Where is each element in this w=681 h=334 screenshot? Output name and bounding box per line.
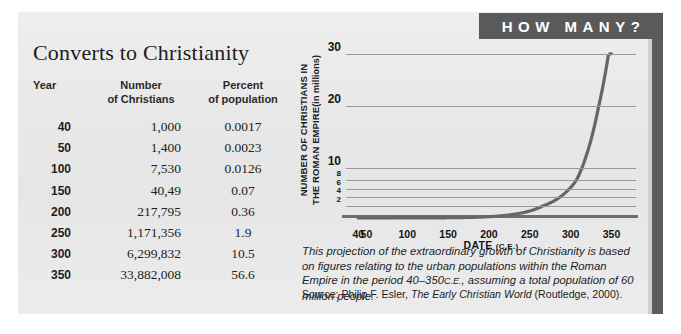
cell-percent: 56.6 — [195, 265, 291, 286]
cell-year: 40 — [33, 117, 87, 138]
table-row: 35033,882,00856.6 — [33, 265, 291, 286]
column-header-year: Year — [33, 79, 87, 117]
cell-number: 40,49 — [87, 180, 195, 201]
converts-table: Year Number of Christians Percent of pop… — [33, 79, 291, 286]
cell-number: 1,400 — [87, 138, 195, 159]
cell-year: 50 — [33, 138, 87, 159]
table-row: 2501,171,3561.9 — [33, 222, 291, 243]
table-row: 3006,299,83210.5 — [33, 244, 291, 265]
cell-percent: 0.36 — [195, 201, 291, 222]
chart-plot-area: 30201086424050100150200250300350 — [346, 46, 636, 218]
cell-percent: 0.0023 — [195, 138, 291, 159]
page-title: Converts to Christianity — [33, 40, 295, 66]
chart-gridline — [346, 197, 636, 198]
column-header-percent-line2: of population — [208, 93, 278, 105]
source-prefix: Source: Philip F. Esler, — [302, 288, 408, 300]
cell-number: 1,000 — [87, 117, 195, 138]
cell-percent: 0.0017 — [195, 117, 291, 138]
cell-percent: 0.0126 — [195, 159, 291, 180]
cell-year: 350 — [33, 265, 87, 286]
table-row: 1007,5300.0126 — [33, 159, 291, 180]
table-block: Converts to Christianity Year Number of … — [33, 40, 295, 286]
column-header-percent-line1: Percent — [223, 79, 263, 91]
y-axis-label-unit: (in millions) — [311, 55, 321, 107]
cell-percent: 1.9 — [195, 222, 291, 243]
chart-gridline — [346, 180, 636, 181]
how-many-banner: HOW MANY? — [479, 13, 663, 39]
cell-year: 100 — [33, 159, 87, 180]
cell-number: 217,795 — [87, 201, 195, 222]
column-header-number-line1: Number — [120, 79, 162, 91]
table-header-row: Year Number of Christians Percent of pop… — [33, 79, 291, 117]
chart-block: NUMBER OF CHRISTIANS IN THE ROMAN EMPIRE… — [300, 40, 650, 240]
growth-curve — [346, 46, 636, 218]
chart-gridline — [346, 168, 636, 169]
y-axis-tick-label: 30 — [328, 40, 341, 54]
cell-year: 300 — [33, 244, 87, 265]
table-row: 200217,7950.36 — [33, 201, 291, 222]
column-header-percent: Percent of population — [195, 79, 291, 117]
y-axis-tick-label: 2 — [337, 194, 341, 203]
chart-gridline — [346, 54, 636, 55]
table-row: 401,0000.0017 — [33, 117, 291, 138]
cell-year: 250 — [33, 222, 87, 243]
cell-number: 1,171,356 — [87, 222, 195, 243]
source-suffix: (Routledge, 2000). — [535, 288, 623, 300]
cell-number: 6,299,832 — [87, 244, 195, 265]
column-header-year-label: Year — [33, 79, 56, 91]
table-row: 15040,490.07 — [33, 180, 291, 201]
caption-line3-smallcaps: C.E. — [444, 276, 462, 286]
y-axis-tick-label: 10 — [328, 154, 341, 168]
cell-year: 200 — [33, 201, 87, 222]
column-header-number-line2: of Christians — [107, 93, 174, 105]
y-axis-tick-label: 20 — [328, 92, 341, 106]
caption-line3-a: period 40–350 — [372, 274, 444, 286]
chart-gridline — [346, 189, 636, 190]
chart-y-axis-label: NUMBER OF CHRISTIANS IN THE ROMAN EMPIRE… — [298, 40, 320, 220]
chart-gridline — [346, 206, 636, 207]
y-axis-label-line2: THE ROMAN EMPIRE — [310, 107, 321, 205]
cell-percent: 0.07 — [195, 180, 291, 201]
cell-year: 150 — [33, 180, 87, 201]
chart-gridline — [346, 106, 636, 107]
figure-root: HOW MANY? Converts to Christianity Year … — [0, 0, 681, 334]
cell-number: 7,530 — [87, 159, 195, 180]
right-spine-dark — [652, 22, 663, 314]
source-line: Source: Philip F. Esler, The Early Chris… — [302, 288, 647, 301]
y-axis-label-line1: NUMBER OF CHRISTIANS IN — [298, 64, 309, 197]
cell-number: 33,882,008 — [87, 265, 195, 286]
column-header-number: Number of Christians — [87, 79, 195, 117]
source-title: The Early Christian World — [411, 288, 532, 300]
cell-percent: 10.5 — [195, 244, 291, 265]
table-row: 501,4000.0023 — [33, 138, 291, 159]
